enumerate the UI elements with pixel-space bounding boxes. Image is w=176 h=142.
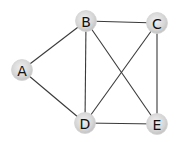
edge-b-d xyxy=(85,21,86,123)
edges-group xyxy=(22,21,157,124)
node-label: D xyxy=(80,116,91,132)
node-d: D xyxy=(75,113,96,134)
node-label: B xyxy=(81,14,91,30)
node-label: A xyxy=(17,63,27,79)
node-c: C xyxy=(147,13,168,34)
graph-diagram: ABCDE xyxy=(0,0,176,142)
node-label: E xyxy=(153,117,162,133)
node-label: C xyxy=(152,16,162,32)
node-a: A xyxy=(12,60,33,81)
node-e: E xyxy=(147,114,168,135)
nodes-group: ABCDE xyxy=(12,11,168,135)
edge-a-b xyxy=(22,21,86,70)
node-b: B xyxy=(76,11,97,32)
edge-a-d xyxy=(22,70,85,123)
